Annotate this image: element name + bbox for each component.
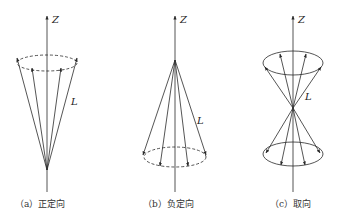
vector-c-down-2 xyxy=(281,108,293,165)
vector-label-a: L xyxy=(71,97,78,107)
vector-b-1 xyxy=(143,60,175,155)
caption-c: （c）取向 xyxy=(270,200,311,209)
panel-c xyxy=(263,16,323,192)
vector-label-b: L xyxy=(197,116,204,126)
z-axis-label-b: Z xyxy=(180,15,187,25)
vector-c-up-1 xyxy=(265,67,293,108)
vector-c-down-1 xyxy=(266,108,293,153)
vector-a-4 xyxy=(47,58,77,170)
vector-b-3 xyxy=(175,60,188,166)
vector-a-1 xyxy=(17,58,47,170)
vector-b-2 xyxy=(160,60,175,166)
vector-a-3 xyxy=(47,68,61,170)
z-axis-label-a: Z xyxy=(52,15,59,25)
panel-b xyxy=(143,16,206,192)
angular-momentum-orientation-diagram: Z L （a）正定向 Z L （b）负定向 Z L （c）取向 xyxy=(0,0,341,223)
caption-a: （a）正定向 xyxy=(15,200,65,209)
panel-a xyxy=(17,16,77,192)
caption-b: （b）负定向 xyxy=(143,200,194,209)
z-axis-label-c: Z xyxy=(298,15,305,25)
vector-c-down-4 xyxy=(293,108,320,153)
vector-b-4 xyxy=(175,60,206,155)
vector-c-up-2 xyxy=(280,54,293,108)
vector-c-down-3 xyxy=(293,108,305,165)
vector-label-c: L xyxy=(305,92,312,102)
diagram-svg xyxy=(0,0,341,223)
vector-a-2 xyxy=(32,68,47,170)
